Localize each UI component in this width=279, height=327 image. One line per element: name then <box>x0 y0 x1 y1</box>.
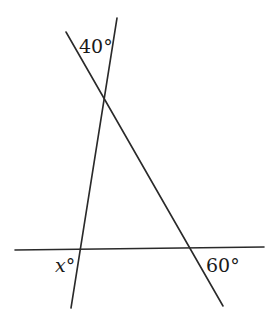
variable-x: x <box>55 254 66 276</box>
angle-label-60: 60° <box>206 254 240 276</box>
degree-symbol: ° <box>66 254 76 276</box>
angle-label-40: 40° <box>79 35 113 57</box>
diagonal-line <box>66 32 223 306</box>
angle-label-x: x° <box>55 254 75 276</box>
angle-diagram: 40° x° 60° <box>0 0 279 327</box>
steep-line <box>71 18 117 308</box>
horizontal-line <box>15 247 264 250</box>
